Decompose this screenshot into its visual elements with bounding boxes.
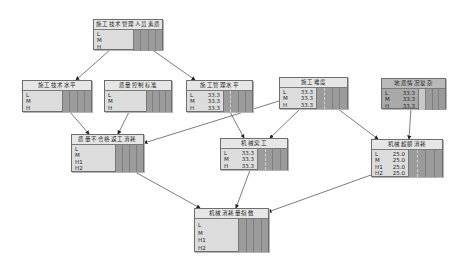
edge-n9-n10 [268,175,371,212]
edge-n4-n8 [230,112,244,138]
probability-bars [62,91,91,112]
probability-bars [408,150,442,177]
state-value: 33.3 [297,102,313,108]
node-construction-management-level[interactable]: 施工管理水平 L33.3 M33.3 H33.3 [186,80,253,112]
node-machine-consumption-index[interactable]: 机械消耗量指数 L M H1 H2 [194,208,269,252]
probability-bars [257,149,287,170]
probability-bars [316,88,347,109]
node-title: 施工难度 [280,78,347,88]
state-value [212,230,228,238]
state-label: H [26,105,40,111]
state-value [89,165,105,171]
edge-n2-n7 [70,112,89,134]
probability-bars [115,145,143,172]
node-title: 质量不合格返工消耗 [72,135,143,145]
node-title: 机械超额消耗 [372,140,442,150]
node-construction-difficulty[interactable]: 施工难度 L33.3 M33.3 H33.3 [279,77,348,109]
node-title: 地质情况复杂 [382,79,445,89]
state-label: H2 [375,170,389,176]
state-value [212,237,228,245]
edge-n6-n9 [409,108,411,139]
state-value [40,105,56,111]
edge-n5-n9 [338,109,378,139]
state-label: H [108,105,122,111]
state-value: 33.3 [204,105,220,111]
probability-bars [133,30,162,51]
edge-n5-n8 [270,109,300,138]
state-label: H [385,103,399,109]
edge-n8-n10 [236,170,250,208]
state-label: M [198,230,212,238]
edge-n3-n7 [118,112,129,134]
state-label: H [190,105,204,111]
state-label: H2 [198,245,212,253]
node-quality-control-standard[interactable]: 质量控制标准 L M H [104,80,172,112]
state-value [111,44,127,50]
probability-bars [418,89,445,110]
state-label: H1 [198,237,212,245]
node-title: 施工管理水平 [187,81,252,91]
node-title: 机械消耗量指数 [195,209,268,219]
probability-bars [223,91,252,112]
node-construction-tech-level[interactable]: 施工技术水平 L M H [22,80,92,112]
probability-bars [146,91,171,112]
node-quality-rework-consumption[interactable]: 质量不合格返工消耗 L M H1 H2 [71,134,144,172]
state-value [212,222,228,230]
state-label: H [97,44,111,50]
node-title: 施工技术水平 [23,81,91,91]
state-value [122,105,138,111]
state-label: L [198,222,212,230]
edge-n7-n10 [135,172,200,208]
node-construction-staff-quality[interactable]: 施工技术管理人员素质 L M H [93,19,163,50]
node-title: 机械窝工 [221,139,287,149]
edge-n1-n2 [76,49,111,80]
node-machine-idle[interactable]: 机械窝工 L33.3 M33.3 H33.3 [220,138,288,170]
node-complex-geology[interactable]: 地质情况复杂 L33.3 M33.3 H33.3 [381,78,446,109]
state-value: 25.0 [389,170,405,176]
state-label: H2 [75,165,89,171]
node-title: 施工技术管理人员素质 [94,20,162,30]
state-label: H [224,163,238,169]
state-value [212,245,228,253]
node-title: 质量控制标准 [105,81,171,91]
probability-bars [238,219,268,252]
state-value: 33.3 [399,103,415,109]
state-label: H [283,102,297,108]
state-value: 33.3 [238,163,254,169]
node-machine-excess-consumption[interactable]: 机械超额消耗 L25.0 M25.0 H125.0 H225.0 [371,139,443,177]
edge-n1-n4 [151,49,195,80]
